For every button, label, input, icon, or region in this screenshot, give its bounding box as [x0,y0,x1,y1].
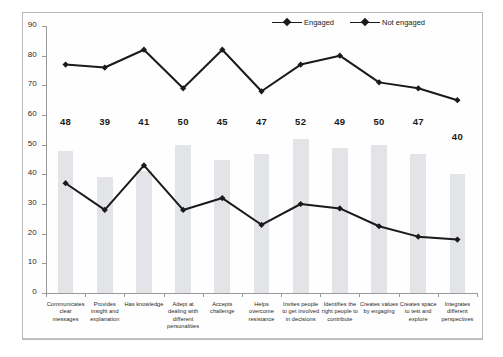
series-marker [454,97,460,103]
series-marker [376,223,382,229]
x-axis-line [46,293,477,294]
chart-figure: Engaged Not engaged 0102030405060708090 … [0,0,503,357]
x-axis-category-label: Has knowledge [124,301,163,308]
series-marker [415,85,421,91]
y-tick-label: 0 [32,287,37,297]
y-tick-label: 60 [28,109,37,119]
x-tick [359,293,360,297]
y-tick-label: 80 [28,50,37,60]
x-tick [46,293,47,297]
x-axis-category-label: Adept atdealing withdifferentpersonaliti… [164,301,203,331]
x-tick [477,293,478,297]
y-tick-label: 30 [28,198,37,208]
x-tick [164,293,165,297]
x-axis-category-label: Creates valuesby engaging [359,301,398,316]
x-tick [203,293,204,297]
x-axis-category-label: Invites peopleto get involvedin decision… [281,301,320,323]
x-tick [242,293,243,297]
y-tick-label: 90 [28,20,37,30]
series-marker [337,205,343,211]
x-axis-category-label: Providesinsight andexplanation [85,301,124,323]
y-tick-label: 70 [28,79,37,89]
series-line-not-engaged [66,165,458,239]
y-tick-label: 50 [28,139,37,149]
series-marker [62,61,68,67]
x-axis-category-label: Identifies theright people tocontribute [320,301,359,323]
series-marker [415,234,421,240]
label-separator-rule [23,338,482,339]
y-tick-label: 20 [28,228,37,238]
x-axis-category-label: Communicatesclear messages [46,301,85,323]
x-tick [399,293,400,297]
series-marker [454,236,460,242]
x-tick [438,293,439,297]
y-tick-label: 40 [28,168,37,178]
x-tick [320,293,321,297]
y-tick-label: 10 [28,257,37,267]
series-layer [46,26,477,293]
x-axis-category-label: Helpsovercomeresistance [242,301,281,323]
series-marker [102,64,108,70]
x-axis-category-label: Creates spaceto test andexplore [399,301,438,323]
plot-area: 4839415045475249504740 [46,26,477,293]
x-axis-category-label: Acceptschallenge [203,301,242,316]
x-tick [124,293,125,297]
x-axis-category-label: Integratesdifferentperspectives [438,301,477,323]
x-tick [281,293,282,297]
x-tick [85,293,86,297]
